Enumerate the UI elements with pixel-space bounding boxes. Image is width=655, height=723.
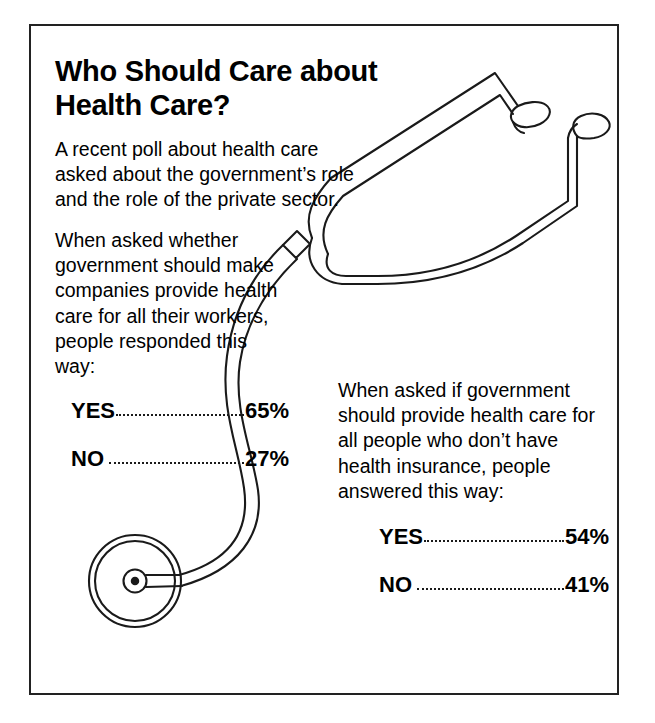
result-value: 41% xyxy=(565,572,609,598)
result-label: YES xyxy=(71,398,115,424)
question-right-paragraph: When asked if government should provide … xyxy=(338,378,613,505)
results-left-group: YES 65% NO 27% xyxy=(71,398,289,494)
result-value: 54% xyxy=(565,524,609,550)
result-label: NO xyxy=(379,572,416,598)
leader-dots xyxy=(417,588,564,590)
poster-frame: Who Should Care about Health Care? A rec… xyxy=(29,24,619,695)
result-row: NO 27% xyxy=(71,446,289,472)
result-row: YES 65% xyxy=(71,398,289,424)
result-value: 27% xyxy=(245,446,289,472)
question-left-paragraph: When asked whether government should mak… xyxy=(55,228,287,380)
leader-dots xyxy=(424,540,564,542)
intro-paragraph: A recent poll about health care asked ab… xyxy=(55,137,355,213)
result-row: NO 41% xyxy=(379,572,609,598)
content-layer: Who Should Care about Health Care? A rec… xyxy=(31,26,621,697)
leader-dots xyxy=(109,462,244,464)
results-right-group: YES 54% NO 41% xyxy=(379,524,609,620)
result-label: YES xyxy=(379,524,423,550)
leader-dots xyxy=(116,414,244,416)
result-row: YES 54% xyxy=(379,524,609,550)
result-value: 65% xyxy=(245,398,289,424)
result-label: NO xyxy=(71,446,108,472)
page-title: Who Should Care about Health Care? xyxy=(55,55,385,122)
